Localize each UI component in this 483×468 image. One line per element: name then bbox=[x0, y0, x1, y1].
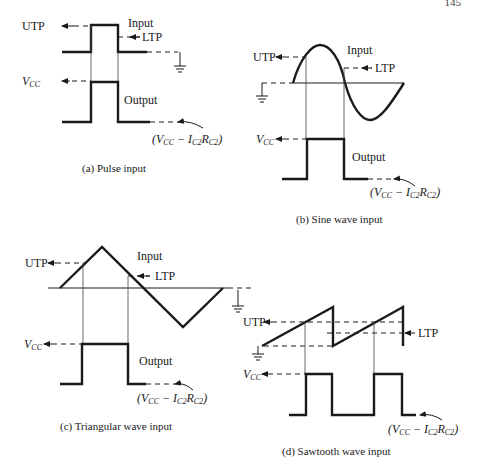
output-label-b: Output bbox=[352, 151, 385, 163]
sawtooth-input-wave bbox=[262, 307, 403, 346]
ground-icon-d bbox=[252, 346, 264, 360]
caption-b: (b) Sine wave input bbox=[296, 214, 382, 225]
ltp-label-c: LTP bbox=[155, 270, 175, 282]
vcc-label-d: VCC bbox=[243, 368, 261, 382]
output-label-a: Output bbox=[124, 94, 157, 106]
caption-d: (d) Sawtooth wave input bbox=[282, 446, 390, 457]
sawtooth-output-wave bbox=[289, 374, 416, 415]
input-label-a: Input bbox=[128, 17, 153, 29]
ltp-label-a: LTP bbox=[142, 31, 162, 43]
utp-label-b: UTP bbox=[253, 51, 276, 63]
ground-icon-b bbox=[256, 83, 268, 102]
vcc-label-a: VCC bbox=[22, 75, 40, 89]
panel-a-pulse bbox=[62, 25, 203, 128]
input-label-c: Input bbox=[137, 250, 162, 262]
triangle-output-wave bbox=[60, 344, 146, 384]
panel-c-triangle bbox=[44, 247, 252, 390]
utp-label-c: UTP bbox=[25, 257, 48, 269]
ground-icon-a bbox=[174, 52, 186, 72]
output-label-c: Output bbox=[139, 355, 172, 367]
ltp-label-b: LTP bbox=[375, 62, 395, 74]
waveform-diagram bbox=[0, 0, 483, 468]
low-level-label-a: (VCC − IC2RC2) bbox=[152, 133, 222, 147]
input-label-b: Input bbox=[347, 44, 372, 56]
utp-label-a: UTP bbox=[22, 20, 45, 32]
low-level-label-b: (VCC − IC2RC2) bbox=[370, 186, 440, 200]
vcc-label-c: VCC bbox=[24, 338, 42, 352]
caption-c: (c) Triangular wave input bbox=[60, 421, 172, 432]
utp-label-d: UTP bbox=[243, 316, 266, 328]
low-level-label-d: (VCC − IC2RC2) bbox=[388, 423, 458, 437]
ground-icon-c bbox=[232, 290, 244, 312]
ltp-label-d: LTP bbox=[418, 327, 438, 339]
vcc-label-b: VCC bbox=[256, 133, 274, 147]
panel-d-sawtooth bbox=[252, 307, 442, 420]
low-level-label-c: (VCC − IC2RC2) bbox=[137, 392, 207, 406]
caption-a: (a) Pulse input bbox=[82, 163, 146, 174]
